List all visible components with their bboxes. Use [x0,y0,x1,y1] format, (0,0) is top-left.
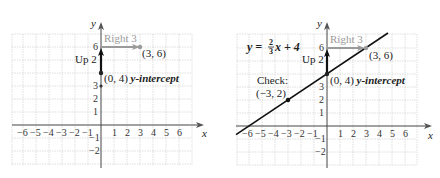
right-check-point-label: (−3, 2) [256,87,286,100]
right-y-label: y [316,17,322,29]
right-point-3-6 [364,46,368,50]
right-point-intercept [325,72,329,76]
left-intercept-label: (0, 4) y-intercept [104,72,180,85]
left-graph: x y −6 −5 −4 −3 −2 −1 1 2 3 4 5 6 6 3 2 … [12,17,207,168]
right-point-check [286,98,290,102]
left-point-0-3 [99,84,102,87]
svg-text:1: 1 [93,106,98,117]
svg-text:−1: −1 [315,133,326,144]
right-equation: y = 2 3 x + 4 [245,38,300,56]
svg-text:6: 6 [93,41,98,52]
right-right3-label: Right 3 [330,33,363,45]
right-up2-label: Up 2 [302,53,324,65]
right-point-end-label: (3, 6) [369,49,393,62]
svg-text:3: 3 [93,80,98,91]
svg-text:y =: y = [245,40,262,54]
svg-text:1: 1 [319,107,324,118]
left-x-label: x [201,127,207,139]
svg-text:1: 1 [112,127,117,138]
svg-text:6: 6 [319,42,324,53]
svg-text:−5: −5 [255,128,266,139]
diagram-canvas: x y −6 −5 −4 −3 −2 −1 1 2 3 4 5 6 6 3 2 … [0,0,440,178]
svg-text:3: 3 [319,81,324,92]
left-y-label: y [90,17,96,29]
svg-text:−4: −4 [43,127,54,138]
svg-text:−5: −5 [30,127,41,138]
svg-text:5: 5 [164,127,169,138]
svg-text:−3: −3 [56,127,67,138]
svg-text:x + 4: x + 4 [274,40,300,54]
left-point-end-label: (3, 6) [142,47,166,60]
svg-text:5: 5 [390,128,395,139]
right-x-label: x [427,129,433,141]
right-graph: x y −6 −5 −4 −3 −2 −1 1 2 3 4 5 6 6 3 2 … [236,17,433,168]
svg-text:−3: −3 [281,128,292,139]
svg-text:2: 2 [93,93,98,104]
svg-text:3: 3 [138,127,143,138]
svg-text:1: 1 [338,128,343,139]
svg-text:−2: −2 [89,145,100,156]
right-check-label: Check: [257,74,288,86]
svg-text:6: 6 [403,128,408,139]
right-intercept-label: (0, 4) y-intercept [330,74,406,87]
svg-text:2: 2 [269,38,273,47]
svg-text:4: 4 [377,128,382,139]
svg-text:4: 4 [151,127,156,138]
svg-text:−1: −1 [89,132,100,143]
svg-text:2: 2 [351,128,356,139]
left-up2-label: Up 2 [75,53,97,65]
svg-text:−2: −2 [315,146,326,157]
svg-text:6: 6 [177,127,182,138]
left-right3-label: Right 3 [104,32,137,44]
svg-text:3: 3 [364,128,369,139]
svg-text:3: 3 [269,47,273,56]
left-point-intercept [99,71,103,75]
svg-text:−2: −2 [294,128,305,139]
svg-text:−6: −6 [17,127,28,138]
svg-text:−4: −4 [268,128,279,139]
svg-text:2: 2 [319,94,324,105]
svg-text:2: 2 [125,127,130,138]
svg-text:−2: −2 [69,127,80,138]
